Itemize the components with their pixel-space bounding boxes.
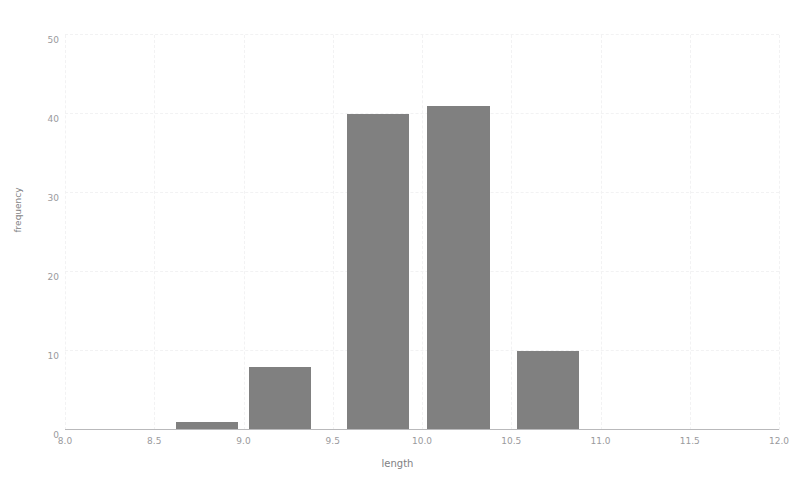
x-tick-label: 12.0	[769, 436, 789, 446]
gridline-x-10.0	[422, 35, 423, 430]
histogram-figure: 01020304050 8.08.59.09.510.010.511.011.5…	[0, 0, 795, 489]
plot-area	[65, 35, 779, 430]
gridline-y-40	[65, 113, 779, 114]
bar	[427, 106, 489, 430]
gridline-x-10.5	[511, 35, 512, 430]
gridline-x-12.0	[779, 35, 780, 430]
gridline-y-20	[65, 271, 779, 272]
y-axis-title: frequency	[13, 170, 23, 250]
x-tick-label: 8.0	[58, 436, 72, 446]
x-tick-label: 9.0	[236, 436, 250, 446]
gridline-x-11.5	[690, 35, 691, 430]
gridline-x-8.5	[154, 35, 155, 430]
bar	[249, 367, 311, 430]
x-axis-title: length	[0, 458, 795, 469]
x-tick-label: 10.0	[412, 436, 432, 446]
gridline-y-50	[65, 34, 779, 35]
gridline-y-10	[65, 350, 779, 351]
bar	[517, 351, 579, 430]
x-tick-label: 10.5	[501, 436, 521, 446]
gridline-x-11.0	[601, 35, 602, 430]
x-tick-label: 9.5	[326, 436, 340, 446]
x-axis-line	[65, 429, 779, 430]
x-axis-tick-labels: 8.08.59.09.510.010.511.011.512.0	[65, 436, 779, 452]
gridline-x-9.5	[333, 35, 334, 430]
x-tick-label: 11.0	[590, 436, 610, 446]
bar	[347, 114, 409, 430]
x-tick-label: 11.5	[680, 436, 700, 446]
x-tick-label: 8.5	[147, 436, 161, 446]
gridline-y-30	[65, 192, 779, 193]
gridline-x-8.0	[65, 35, 66, 430]
gridline-x-9.0	[244, 35, 245, 430]
